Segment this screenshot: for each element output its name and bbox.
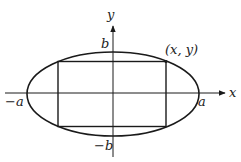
inscribed-rectangle	[58, 62, 166, 127]
neg-x-intercept-label: −a	[5, 94, 24, 109]
y-axis-label: y	[106, 7, 115, 22]
pos-x-intercept-label: a	[198, 94, 206, 109]
neg-y-intercept-label: −b	[94, 138, 113, 153]
ellipse-diagram: y x b −b a −a (x, y)	[0, 0, 241, 162]
corner-point	[164, 60, 167, 63]
pos-y-intercept-label: b	[101, 36, 109, 51]
x-axis-label: x	[229, 85, 237, 100]
point-label: (x, y)	[165, 42, 198, 57]
